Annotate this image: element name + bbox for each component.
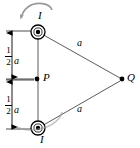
label-side-bottom: a (77, 104, 82, 114)
wire-top-current-out-of-page-icon (31, 25, 45, 39)
fraction-unit-lower: a (14, 104, 19, 116)
label-current-bottom: I (40, 134, 44, 145)
label-point-p: P (43, 72, 50, 83)
fraction-numerator: 1 (5, 95, 12, 104)
label-current-top: I (38, 10, 42, 21)
point-p-marker (35, 77, 40, 82)
fraction-half-lower: 1 2 (5, 95, 12, 116)
fraction-denominator: 2 (5, 58, 12, 67)
fraction-unit-upper: a (14, 55, 19, 67)
label-point-q: Q (127, 72, 135, 83)
point-q-marker (120, 77, 125, 82)
figure-canvas (0, 0, 140, 148)
label-half-a-upper: 1 2 a (5, 46, 19, 67)
label-side-top: a (77, 38, 82, 48)
fraction-half-upper: 1 2 (5, 46, 12, 67)
rotation-arrow-top-icon (21, 3, 52, 18)
fraction-denominator: 2 (5, 107, 12, 116)
physics-figure: I I P Q a a 1 2 a 1 2 a (0, 0, 140, 148)
label-half-a-lower: 1 2 a (5, 95, 19, 116)
fraction-numerator: 1 (5, 46, 12, 55)
